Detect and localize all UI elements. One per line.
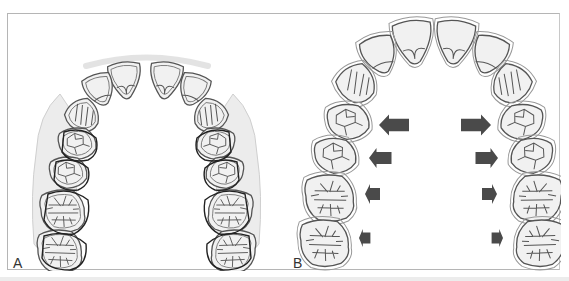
arrow-right-3 <box>482 184 497 204</box>
arrow-left-3 <box>365 184 380 204</box>
bottom-strip <box>0 277 569 281</box>
panel-b: B <box>285 14 561 269</box>
figure-frame: A <box>7 13 560 270</box>
panel-label-a: A <box>13 256 22 270</box>
dental-arch-a-illustration <box>8 14 285 271</box>
arrow-left-2 <box>369 148 392 168</box>
panel-label-b: B <box>293 256 302 270</box>
panel-a: A <box>8 14 285 269</box>
arrow-right-1 <box>461 115 491 136</box>
arrow-right-2 <box>476 148 499 168</box>
arrow-left-1 <box>379 115 409 136</box>
dental-arch-b-illustration <box>285 14 561 271</box>
arrow-right-4 <box>492 229 503 247</box>
arrow-left-4 <box>359 229 370 247</box>
